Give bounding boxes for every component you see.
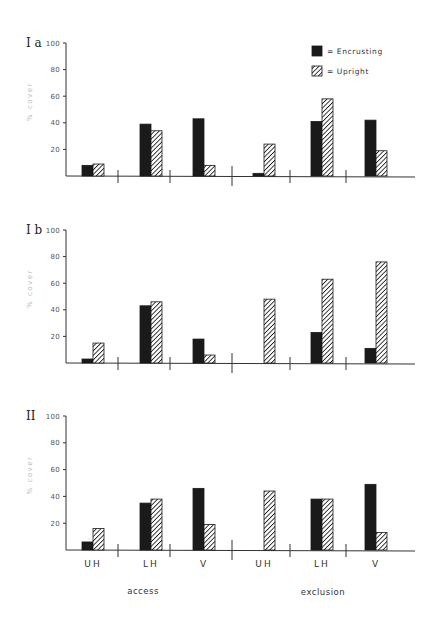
category-label: LH — [314, 559, 330, 569]
bar-upright-lh — [151, 499, 162, 550]
y-tick-label: 60 — [50, 466, 60, 474]
bar-encrusting-uh — [253, 173, 264, 176]
legend-label: = Encrusting — [327, 47, 383, 56]
bar-encrusting-uh — [82, 165, 93, 176]
bar-encrusting-v — [193, 119, 204, 176]
y-tick-label: 100 — [46, 413, 60, 421]
legend-swatch-encrusting — [312, 46, 322, 56]
figure: I a20406080100% coverI b20406080100% cov… — [0, 0, 434, 620]
category-label: V — [200, 559, 208, 569]
y-tick-label: 60 — [50, 93, 60, 101]
bar-encrusting-lh — [140, 503, 151, 550]
category-label: V — [372, 559, 380, 569]
panel-label: I b — [26, 223, 43, 237]
bar-upright-v — [376, 151, 387, 176]
bar-upright-v — [204, 165, 215, 176]
panels: I a20406080100% coverI b20406080100% cov… — [26, 36, 415, 560]
bar-encrusting-lh — [311, 121, 322, 176]
panel-ia: I a20406080100% cover — [26, 36, 415, 186]
y-tick-label: 40 — [50, 493, 60, 501]
y-tick-label: 40 — [50, 306, 60, 314]
y-tick-label: 100 — [46, 227, 60, 235]
category-label: UH — [255, 559, 272, 569]
y-tick-label: 60 — [50, 280, 60, 288]
bar-upright-v — [376, 533, 387, 550]
bar-encrusting-lh — [140, 124, 151, 176]
y-tick-label: 80 — [50, 253, 60, 261]
y-axis-label: % cover — [26, 456, 34, 495]
bar-upright-lh — [151, 131, 162, 176]
category-label: UH — [84, 559, 101, 569]
bar-encrusting-lh — [311, 499, 322, 550]
bar-encrusting-v — [365, 484, 376, 550]
x-axis-labels: UHLHVUHLHVaccessexclusion — [84, 559, 380, 597]
panel-ii: II20406080100% cover — [26, 409, 415, 560]
y-tick-label: 80 — [50, 66, 60, 74]
panel-ib: I b20406080100% cover — [26, 223, 415, 373]
legend-label: = Upright — [327, 67, 369, 76]
bar-encrusting-lh — [311, 332, 322, 363]
bar-upright-lh — [322, 99, 333, 176]
y-tick-label: 20 — [50, 520, 60, 528]
bar-encrusting-uh — [82, 542, 93, 550]
legend-swatch-upright — [312, 66, 322, 76]
y-tick-label: 80 — [50, 439, 60, 447]
bar-upright-uh — [264, 491, 275, 550]
bar-encrusting-v — [365, 120, 376, 176]
panel-label: I a — [26, 36, 42, 50]
bar-upright-uh — [93, 164, 104, 176]
bar-upright-lh — [322, 499, 333, 550]
bar-encrusting-v — [193, 339, 204, 363]
bar-upright-lh — [322, 279, 333, 363]
bar-upright-uh — [264, 144, 275, 176]
y-tick-label: 40 — [50, 119, 60, 127]
bar-upright-v — [204, 525, 215, 550]
bar-upright-uh — [93, 529, 104, 550]
bar-encrusting-v — [365, 348, 376, 363]
y-tick-label: 100 — [46, 40, 60, 48]
bar-encrusting-uh — [82, 359, 93, 363]
legend: = Encrusting= Upright — [312, 46, 383, 76]
y-tick-label: 20 — [50, 333, 60, 341]
y-axis-label: % cover — [26, 82, 34, 121]
bar-upright-uh — [264, 299, 275, 363]
bar-upright-lh — [151, 302, 162, 363]
bar-upright-v — [376, 262, 387, 363]
y-axis-label: % cover — [26, 269, 34, 308]
bar-upright-uh — [93, 343, 104, 363]
bar-encrusting-v — [193, 488, 204, 550]
bar-upright-v — [204, 355, 215, 363]
group-label-access: access — [127, 586, 159, 596]
bar-encrusting-lh — [140, 306, 151, 363]
category-label: LH — [143, 559, 159, 569]
group-label-exclusion: exclusion — [301, 587, 345, 597]
panel-label: II — [26, 409, 36, 423]
y-tick-label: 20 — [50, 146, 60, 154]
